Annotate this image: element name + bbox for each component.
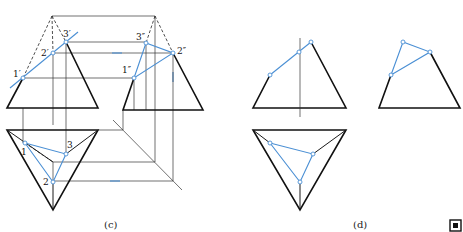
point-1-front <box>21 76 25 80</box>
caption-c: (c) <box>104 219 118 230</box>
point-3-front <box>64 40 68 44</box>
qr-code-icon[interactable] <box>450 220 461 231</box>
point-3-side <box>401 40 405 44</box>
point-1-top <box>268 141 272 145</box>
side-section-triangle <box>391 42 430 75</box>
label-2-front: 2′ <box>41 48 49 58</box>
point-1-side <box>389 73 393 77</box>
point-2-side <box>428 50 432 54</box>
caption-d: (d) <box>353 219 367 230</box>
point-2-top <box>298 180 302 184</box>
point-2-top <box>51 180 55 184</box>
point-1-front <box>268 73 272 77</box>
point-2-front <box>297 50 301 54</box>
miter-line <box>113 120 182 190</box>
label-2-side: 2″ <box>177 46 187 56</box>
panel-c: 1′ 2′ 3′ 1″ 2″ 3″ 1 2 3 (c) <box>7 16 203 230</box>
label-3-top: 3 <box>67 140 73 150</box>
label-2-top: 2 <box>43 177 49 187</box>
side-view-outline <box>123 53 203 110</box>
point-2-side <box>171 51 175 55</box>
point-3-top <box>311 152 315 156</box>
side-view-outline <box>379 52 460 108</box>
point-3-top <box>64 152 68 156</box>
point-1-side <box>132 76 136 80</box>
section-line <box>270 42 311 75</box>
label-1-top: 1 <box>21 147 27 157</box>
label-3-side: 3″ <box>136 32 146 42</box>
point-1-top <box>23 141 27 145</box>
projection-diagram: 1′ 2′ 3′ 1″ 2″ 3″ 1 2 3 (c) <box>0 0 463 232</box>
point-3-front <box>309 40 313 44</box>
top-view-edges <box>7 130 98 210</box>
top-view-edges <box>253 130 346 210</box>
point-2-front <box>51 51 55 55</box>
panel-d: (d) <box>253 38 460 230</box>
label-1-front: 1′ <box>13 69 21 79</box>
top-section-triangle <box>270 143 313 182</box>
label-3-front: 3′ <box>63 29 71 39</box>
label-1-side: 1″ <box>122 65 132 75</box>
side-section-triangle <box>134 43 173 78</box>
